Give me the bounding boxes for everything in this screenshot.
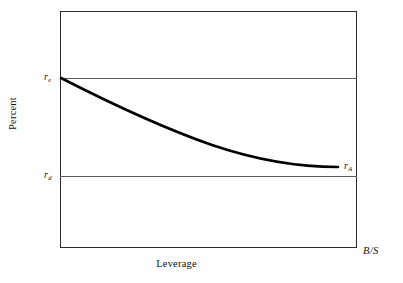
x-axis-end-label-s: S [373,245,379,256]
label-cost-of-equity-subscript: e [48,76,51,83]
x-axis-title: Leverage [0,258,403,269]
y-axis-title-text: Percent [7,97,18,130]
x-axis-end-label-b: B [363,245,370,256]
label-cost-of-debt-subscript: d [48,174,51,181]
label-cost-of-debt: rd [44,170,51,180]
gridline-cost-of-debt [60,176,357,177]
y-axis-title: Percent [7,84,18,144]
x-axis-title-text: Leverage [156,258,197,269]
label-wacc-subscript: A [348,165,352,172]
plot-frame [60,11,357,248]
figure-container: re rd rA Leverage B/S Percent [0,0,403,283]
label-cost-of-equity: re [44,72,51,82]
label-wacc: rA [344,161,352,171]
x-axis-end-label: B/S [363,245,379,256]
gridline-cost-of-equity [60,78,357,79]
